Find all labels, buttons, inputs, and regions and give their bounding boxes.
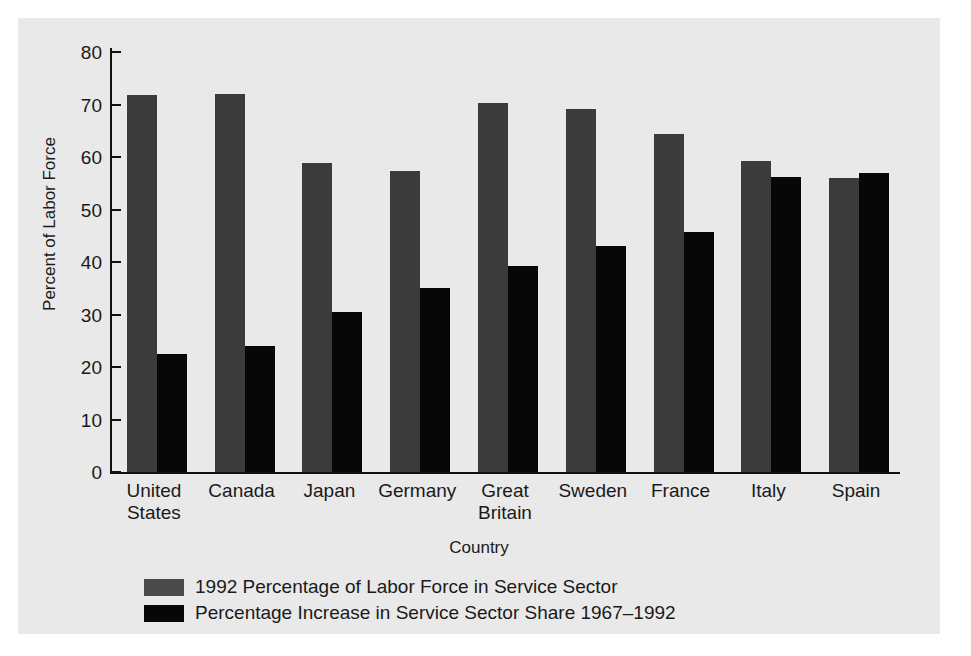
bar: [245, 346, 275, 472]
bar-group: [478, 52, 538, 472]
bar: [157, 354, 187, 472]
legend-swatch-icon: [144, 579, 184, 596]
legend-label: Percentage Increase in Service Sector Sh…: [195, 602, 676, 624]
legend-item: 1992 Percentage of Labor Force in Servic…: [144, 574, 676, 600]
legend-swatch-icon: [144, 605, 184, 622]
bar-group: [390, 52, 450, 472]
bar: [302, 163, 332, 472]
bar: [566, 109, 596, 472]
bar: [332, 312, 362, 472]
x-axis-line: [110, 472, 900, 474]
y-tick-label: 80: [42, 43, 102, 62]
chart-legend: 1992 Percentage of Labor Force in Servic…: [144, 574, 676, 626]
bar-group: [741, 52, 801, 472]
bar-group: [215, 52, 275, 472]
x-tick-label: Spain: [802, 480, 910, 502]
y-tick-label: 0: [42, 463, 102, 482]
bar-group: [302, 52, 362, 472]
bar: [859, 173, 889, 472]
bar: [390, 171, 420, 472]
bar: [215, 94, 245, 472]
bar: [771, 177, 801, 472]
bar-group: [654, 52, 714, 472]
bar-group: [127, 52, 187, 472]
y-axis-title: Percent of Labor Force: [40, 64, 60, 384]
x-axis-title: Country: [18, 538, 940, 558]
bar: [684, 232, 714, 472]
legend-label: 1992 Percentage of Labor Force in Servic…: [195, 576, 617, 598]
bar: [596, 246, 626, 472]
plot-area: [110, 52, 900, 472]
bar: [508, 266, 538, 472]
bar: [829, 178, 859, 472]
bar: [741, 161, 771, 472]
legend-item: Percentage Increase in Service Sector Sh…: [144, 600, 676, 626]
bar: [420, 288, 450, 472]
y-tick-label: 10: [42, 411, 102, 430]
bar: [654, 134, 684, 472]
bar-group: [829, 52, 889, 472]
bar-group: [566, 52, 626, 472]
bar: [478, 103, 508, 472]
chart-figure: 01020304050607080 Percent of Labor Force…: [18, 18, 940, 634]
bar: [127, 95, 157, 472]
